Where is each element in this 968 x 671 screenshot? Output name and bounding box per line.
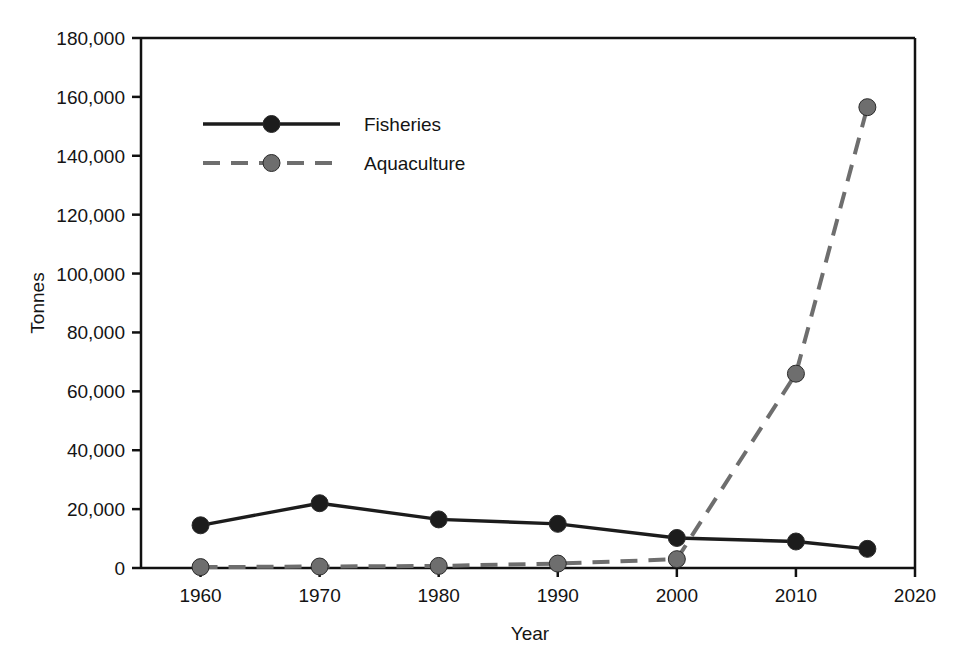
axis-lines [141,38,915,568]
legend-label-aquaculture: Aquaculture [364,153,465,174]
y-tick-label: 60,000 [67,381,125,402]
legend-marker-fisheries [263,116,280,133]
data-point [859,540,876,557]
data-point [549,515,566,532]
data-point [549,555,566,572]
y-tick-label: 80,000 [67,322,125,343]
legend-marker-aquaculture [263,155,280,172]
x-tick-label: 2000 [656,585,698,606]
x-tick-label: 1980 [418,585,460,606]
data-point [668,551,685,568]
y-tick-label: 180,000 [56,28,125,49]
line-chart: 020,00040,00060,00080,000100,000120,0001… [0,0,968,671]
chart-legend: FisheriesAquaculture [203,114,465,174]
x-axis-title: Year [511,623,550,644]
data-point [787,533,804,550]
data-point [192,559,209,576]
y-axis-title: Tonnes [27,272,48,333]
x-tick-label: 1990 [537,585,579,606]
data-point [859,99,876,116]
x-tick-label: 2020 [894,585,936,606]
legend-label-fisheries: Fisheries [364,114,441,135]
data-point [311,558,328,575]
data-point [311,495,328,512]
x-tick-label: 2010 [775,585,817,606]
y-tick-label: 140,000 [56,146,125,167]
data-series-lines [201,107,868,567]
data-point [668,529,685,546]
data-point [192,517,209,534]
data-point [430,557,447,574]
x-tick-label: 1970 [298,585,340,606]
x-axis-tick-labels: 1960197019801990200020102020 [179,585,936,606]
y-tick-label: 160,000 [56,87,125,108]
data-series-markers [192,99,876,576]
chart-container: 020,00040,00060,00080,000100,000120,0001… [0,0,968,671]
x-tick-label: 1960 [179,585,221,606]
series-line-aquaculture [201,107,868,567]
y-axis-tick-labels: 020,00040,00060,00080,000100,000120,0001… [56,28,125,579]
y-tick-label: 100,000 [56,264,125,285]
series-line-fisheries [201,503,868,549]
data-point [787,365,804,382]
y-tick-label: 20,000 [67,499,125,520]
y-axis-ticks [132,38,141,568]
y-tick-label: 0 [114,558,125,579]
y-tick-label: 120,000 [56,205,125,226]
y-tick-label: 40,000 [67,440,125,461]
data-point [430,511,447,528]
